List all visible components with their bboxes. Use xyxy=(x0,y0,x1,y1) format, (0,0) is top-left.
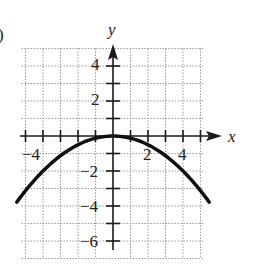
panel-label: ) xyxy=(0,25,4,44)
y-tick-label: 4 xyxy=(91,55,100,74)
y-axis-label: y xyxy=(106,20,116,39)
x-axis-label: x xyxy=(227,127,236,146)
parabola-graph: ) x y −4 2 4 4 2 −2 −4 −6 xyxy=(0,0,256,267)
y-tick-label: −4 xyxy=(80,197,99,216)
x-tick-label: −4 xyxy=(22,145,41,164)
x-tick-label: 4 xyxy=(178,145,187,164)
y-tick-label: −6 xyxy=(80,232,98,251)
y-tick-label: 2 xyxy=(91,90,100,109)
y-axis xyxy=(108,44,118,250)
x-tick-label: 2 xyxy=(143,145,152,164)
y-tick-label: −2 xyxy=(80,162,98,181)
